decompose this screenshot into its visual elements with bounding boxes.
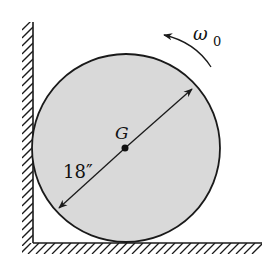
- disk-in-corner-diagram: G 18″ ω 0: [0, 0, 279, 273]
- wall-hatching: [22, 19, 33, 246]
- center-of-mass-dot: [122, 145, 129, 152]
- center-label: G: [115, 123, 129, 143]
- floor-hatching: [20, 243, 263, 254]
- diameter-label: 18″: [63, 161, 93, 182]
- omega-subscript-label: 0: [213, 34, 221, 49]
- omega-symbol-label: ω: [193, 23, 208, 44]
